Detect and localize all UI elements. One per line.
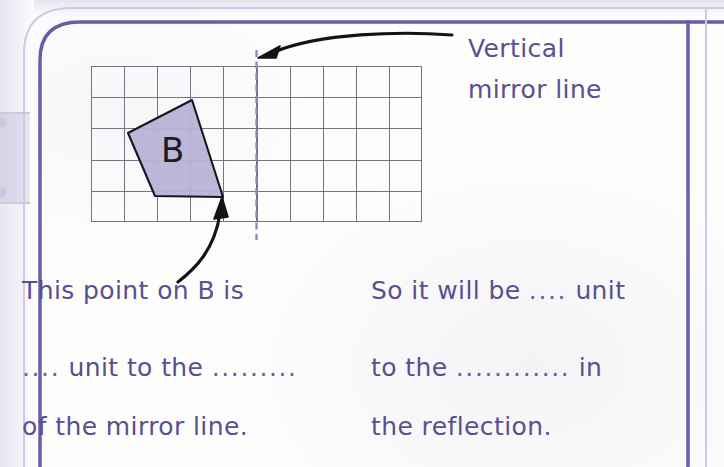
blank-left-direction[interactable]: ......... — [212, 353, 298, 383]
blank-left-units[interactable]: .... — [22, 353, 60, 383]
question-left-line1: This point on B is — [22, 276, 244, 306]
shape-label-b: B — [161, 130, 184, 170]
question-left-line2: .... unit to the ......... — [22, 353, 298, 383]
page-left-edge-shading — [0, 0, 34, 467]
worksheet-page: B Vertical mirror line This point on B i… — [0, 0, 724, 467]
page-top-edge-shading — [0, 0, 724, 16]
question-right-line3: the reflection. — [371, 412, 552, 442]
question-left-line3: of the mirror line. — [22, 412, 248, 442]
spine-hole-top — [0, 118, 7, 127]
coordinate-grid — [91, 66, 422, 222]
question-right-line2-pre: to the — [371, 353, 456, 382]
page-spine-band — [0, 112, 30, 204]
question-right-line1: So it will be .... unit — [371, 276, 625, 306]
question-right-line1-pre: So it will be — [371, 276, 529, 305]
question-right-line2-post: in — [570, 353, 602, 382]
question-left-line2-mid: unit to the — [60, 353, 212, 382]
question-right-line2: to the ............ in — [371, 353, 602, 383]
arrow-to-mirror-line — [258, 33, 452, 58]
spine-hole-bottom — [0, 188, 7, 197]
blank-right-units[interactable]: .... — [529, 276, 567, 306]
mirror-line-label-line2: mirror line — [468, 69, 602, 110]
mirror-line-label-line1: Vertical — [468, 28, 602, 69]
blank-right-direction[interactable]: ............ — [456, 353, 571, 383]
question-right-line1-post: unit — [567, 276, 625, 305]
mirror-line-label: Vertical mirror line — [468, 28, 602, 110]
grid-lines — [91, 66, 422, 222]
